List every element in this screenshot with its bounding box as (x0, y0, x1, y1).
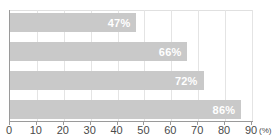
bar-value-3: 72% (175, 75, 198, 86)
bar-row: 72% (10, 71, 252, 90)
bar-row: 47% (10, 13, 252, 32)
tick-label-50: 50 (137, 125, 149, 136)
tick-label-40: 40 (110, 125, 122, 136)
gridline-90 (252, 10, 253, 121)
tick-label-20: 20 (57, 125, 69, 136)
y-axis-line (9, 10, 10, 122)
bar-row: 86% (10, 100, 252, 119)
bar-4[interactable]: 86% (10, 100, 241, 119)
x-axis-line (9, 121, 253, 122)
x-axis-unit-label: (%) (259, 127, 271, 135)
bar-value-1: 47% (108, 17, 131, 28)
tick-label-10: 10 (30, 125, 42, 136)
plot-top-rule (10, 10, 252, 11)
tick-label-80: 80 (218, 125, 230, 136)
bar-value-4: 86% (213, 104, 236, 115)
tick-label-30: 30 (84, 125, 96, 136)
bar-3[interactable]: 72% (10, 71, 204, 90)
tick-label-60: 60 (164, 125, 176, 136)
tick-label-90: 90 (245, 125, 257, 136)
bar-chart: 47% 66% 72% 86% (0, 0, 277, 140)
bar-2[interactable]: 66% (10, 42, 187, 61)
tick-label-0: 0 (6, 125, 12, 136)
tick-label-70: 70 (191, 125, 203, 136)
bar-1[interactable]: 47% (10, 13, 136, 32)
plot-area: 47% 66% 72% 86% (10, 10, 252, 121)
bar-value-2: 66% (159, 46, 182, 57)
bar-row: 66% (10, 42, 252, 61)
